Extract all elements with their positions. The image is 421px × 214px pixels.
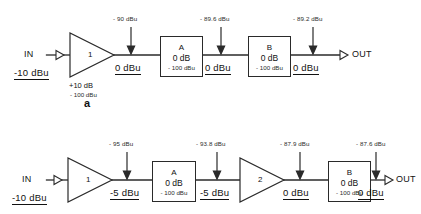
signal-chain-figure: A 0 dB - 100 dBu B 0 dB - 100 dBu IN -10… bbox=[0, 0, 421, 214]
noise-after-block-b-label: - 89.2 dBu bbox=[293, 16, 323, 22]
block-a-noise: - 100 dBu bbox=[161, 64, 202, 71]
output-level-label: 0 dBu bbox=[293, 63, 319, 75]
input-level-label-2: -10 dBu bbox=[12, 193, 47, 205]
amp1-number: 1 bbox=[88, 51, 92, 59]
block-a-2-gain: 0 dB bbox=[153, 178, 195, 188]
output-port-label-2: OUT bbox=[396, 175, 416, 184]
block-b: B 0 dB - 100 dBu bbox=[248, 36, 291, 77]
level-after-amp1-label: 0 dBu bbox=[115, 63, 141, 75]
level-after-block-a-label: 0 dBu bbox=[205, 63, 231, 75]
block-a-name: A bbox=[161, 43, 202, 52]
output-level-label-2: 0 dBu bbox=[358, 188, 384, 200]
noise-after-amp1-label: - 90 dBu bbox=[113, 16, 137, 22]
block-b-noise: - 100 dBu bbox=[249, 64, 290, 71]
noise-after-block-a-label-2: - 93.8 dBu bbox=[196, 141, 226, 147]
block-a-2-noise: - 100 dBu bbox=[153, 189, 195, 196]
input-port-label-2: IN bbox=[22, 175, 31, 184]
input-level-label: -10 dBu bbox=[14, 68, 49, 80]
level-after-block-a-label-2: -5 dBu bbox=[200, 188, 229, 200]
noise-after-block-a-label: - 89.6 dBu bbox=[200, 16, 230, 22]
amp1-number-2: 1 bbox=[86, 176, 90, 184]
noise-after-block-b-label-2: - 87.6 dBu bbox=[356, 141, 386, 147]
block-b-name: B bbox=[249, 43, 290, 52]
noise-after-amp2-label: - 87.9 dBu bbox=[280, 141, 310, 147]
block-a-gain: 0 dB bbox=[161, 53, 202, 63]
block-a-2: A 0 dB - 100 dBu bbox=[152, 161, 196, 202]
block-a-2-name: A bbox=[153, 168, 195, 177]
block-b-gain: 0 dB bbox=[249, 53, 290, 63]
output-port-label: OUT bbox=[352, 50, 372, 59]
amp2-number: 2 bbox=[258, 176, 262, 184]
block-b-2-name: B bbox=[329, 168, 370, 177]
noise-after-amp1-label-2: - 95 dBu bbox=[109, 141, 133, 147]
figure-label-a: a bbox=[84, 98, 90, 109]
level-after-amp2-label: 0 dBu bbox=[283, 188, 309, 200]
input-port-label: IN bbox=[24, 50, 33, 59]
diagram-a: A 0 dB - 100 dBu B 0 dB - 100 dBu IN -10… bbox=[0, 0, 421, 110]
block-a: A 0 dB - 100 dBu bbox=[160, 36, 203, 77]
block-b-2-gain: 0 dB bbox=[329, 178, 370, 188]
level-after-amp1-label-2: -5 dBu bbox=[110, 188, 139, 200]
diagram-b: A 0 dB - 100 dBu B 0 dB - 100 dBu IN -10… bbox=[0, 110, 421, 214]
amp1-gain: +10 dB bbox=[69, 82, 93, 90]
